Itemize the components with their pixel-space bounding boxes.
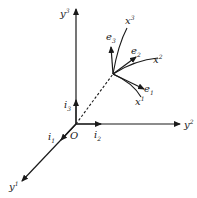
position-dashed-line — [76, 74, 113, 124]
y2-label: y2 — [183, 118, 194, 130]
e1-label: e1 — [144, 83, 154, 96]
x3-label: x3 — [125, 14, 135, 26]
e2-label: e2 — [131, 45, 141, 58]
origin-label: O — [70, 130, 78, 141]
y3-label: y3 — [59, 7, 70, 19]
y1-label: y1 — [8, 180, 18, 192]
i2-label: i2 — [94, 129, 101, 142]
x2-label: x2 — [153, 53, 163, 65]
x1-label: x1 — [135, 95, 144, 107]
i3-label: i3 — [64, 99, 71, 112]
e3-label: e3 — [106, 31, 116, 44]
coordinate-diagram: y3 y2 y1 O i3 i2 i1 x3 x2 x1 e3 e2 e1 — [0, 0, 197, 198]
x2-curve — [113, 58, 158, 74]
i1-label: i1 — [48, 131, 55, 144]
e3-vector — [111, 47, 113, 74]
e1-vector — [113, 74, 144, 89]
